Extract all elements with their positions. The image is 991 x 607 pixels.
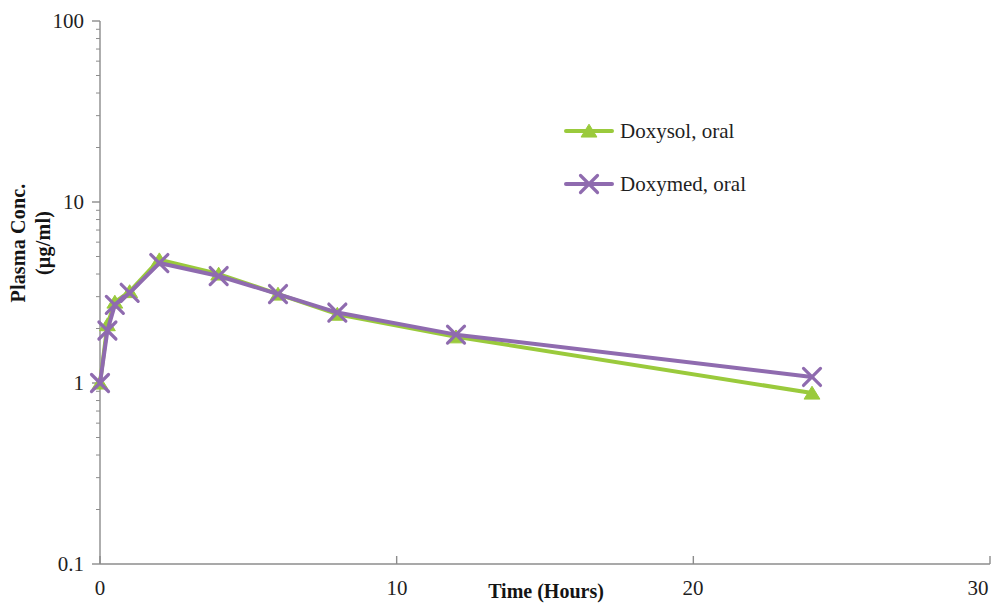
series-line xyxy=(100,263,812,383)
y-axis-title-line2: (µg/ml) xyxy=(32,211,54,275)
x-tick-label-0: 0 xyxy=(95,578,106,599)
series-line xyxy=(100,260,812,393)
series-1 xyxy=(92,253,820,399)
legend-swatch-doxysol xyxy=(566,124,612,137)
legend-swatch-doxymed xyxy=(566,176,612,193)
chart-figure: 100 10 1 0.1 0 10 20 30 Plasma Conc. (µg… xyxy=(0,0,991,607)
y-tick-label-100: 100 xyxy=(8,11,84,32)
x-tick-label-30: 30 xyxy=(968,578,989,599)
y-tick-label-1: 1 xyxy=(8,373,84,394)
plot-area xyxy=(0,0,991,607)
y-tick-label-0.1: 0.1 xyxy=(8,554,84,575)
x-axis-title: Time (Hours) xyxy=(396,580,696,603)
y-axis-title: Plasma Conc. (µg/ml) xyxy=(6,128,56,358)
y-axis-title-line1: Plasma Conc. xyxy=(7,183,29,302)
series-2 xyxy=(92,255,821,392)
legend-label-doxymed: Doxymed, oral xyxy=(620,174,746,195)
legend-label-doxysol: Doxysol, oral xyxy=(620,121,734,142)
